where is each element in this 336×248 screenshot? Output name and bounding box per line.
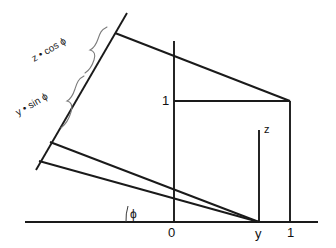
phi-angle-arc: [126, 206, 128, 222]
origin-label: 0: [168, 226, 175, 239]
z-label: z: [264, 124, 270, 135]
tilted-axis-line: [36, 13, 127, 170]
second-projection-line: [50, 142, 259, 222]
y-tick-label: y: [255, 227, 262, 240]
diagram-canvas: 0 y 1 1 z ϕ z • cos ϕ y • sin ϕ: [0, 0, 336, 248]
lower-projection-line: [39, 161, 259, 222]
one-tick-label: 1: [287, 226, 294, 239]
vertical-unit-label: 1: [162, 94, 169, 107]
phi-angle-label: ϕ: [130, 208, 137, 220]
diagram-svg: [0, 0, 336, 248]
upper-projection-line: [115, 33, 290, 101]
